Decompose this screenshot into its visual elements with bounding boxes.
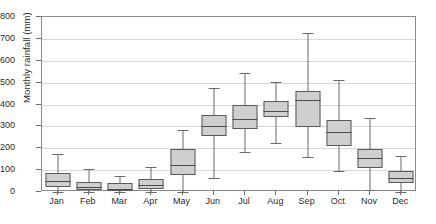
x-axis-tick-mark xyxy=(244,191,245,195)
lower-whisker xyxy=(401,183,402,192)
x-axis-tick-mark xyxy=(213,191,214,195)
upper-whisker xyxy=(370,118,371,150)
upper-whisker xyxy=(182,130,183,150)
x-axis-tick-label-feb: Feb xyxy=(80,196,96,206)
upper-cap xyxy=(177,130,188,131)
lower-cap xyxy=(52,192,63,193)
upper-whisker xyxy=(57,154,58,174)
box-series xyxy=(42,17,415,190)
lower-whisker xyxy=(370,168,371,190)
lower-cap xyxy=(208,178,219,179)
interquartile-box xyxy=(264,101,289,116)
upper-cap xyxy=(146,167,157,168)
x-axis-tick-label-jul: Jul xyxy=(238,196,250,206)
upper-whisker xyxy=(120,176,121,184)
y-axis-tick-mark xyxy=(36,191,41,192)
x-axis-tick-label-may: May xyxy=(173,196,190,206)
lower-cap xyxy=(83,192,94,193)
y-axis-tick-label: 0 xyxy=(0,186,15,196)
lower-cap xyxy=(396,192,407,193)
x-axis-tick-label-jun: Jun xyxy=(206,196,221,206)
median-line xyxy=(326,132,351,133)
upper-cap xyxy=(396,156,407,157)
upper-whisker xyxy=(307,33,308,91)
upper-whisker xyxy=(338,80,339,119)
lower-cap xyxy=(115,192,126,193)
y-axis-tick-label: 100 xyxy=(0,164,15,174)
median-line xyxy=(233,119,258,120)
median-line xyxy=(108,189,133,190)
lower-cap xyxy=(271,143,282,144)
x-axis-tick-mark xyxy=(275,191,276,195)
upper-cap xyxy=(83,169,94,170)
y-axis-tick-label: 200 xyxy=(0,142,15,152)
lower-whisker xyxy=(213,136,214,178)
x-axis-tick-mark xyxy=(369,191,370,195)
x-axis-tick-label-sep: Sep xyxy=(299,196,315,206)
interquartile-box xyxy=(108,183,133,191)
lower-whisker xyxy=(276,117,277,143)
upper-whisker xyxy=(88,169,89,182)
plot-area xyxy=(41,16,416,191)
y-axis-tick-label: 600 xyxy=(0,55,15,65)
interquartile-box xyxy=(233,105,258,129)
x-axis-tick-mark xyxy=(307,191,308,195)
x-axis-tick-label-dec: Dec xyxy=(392,196,408,206)
x-axis-tick-mark xyxy=(338,191,339,195)
upper-whisker xyxy=(151,167,152,179)
median-line xyxy=(295,100,320,101)
lower-cap xyxy=(177,192,188,193)
lower-whisker xyxy=(245,129,246,152)
interquartile-box xyxy=(139,179,164,190)
x-axis-tick-label-mar: Mar xyxy=(111,196,127,206)
y-axis-title: Monthly rainfall (mm) xyxy=(21,0,32,128)
median-line xyxy=(76,187,101,188)
interquartile-box xyxy=(326,120,351,146)
lower-whisker xyxy=(182,175,183,193)
interquartile-box xyxy=(295,91,320,127)
upper-cap xyxy=(52,154,63,155)
upper-cap xyxy=(365,118,376,119)
lower-cap xyxy=(146,192,157,193)
upper-whisker xyxy=(276,82,277,102)
y-axis-tick-label: 400 xyxy=(0,99,15,109)
median-line xyxy=(139,185,164,186)
median-line xyxy=(389,178,414,179)
upper-cap xyxy=(208,88,219,89)
lower-cap xyxy=(240,152,251,153)
box-plot-chart: Monthly rainfall (mm) 010020030040050060… xyxy=(0,0,436,224)
median-line xyxy=(264,111,289,112)
upper-cap xyxy=(271,82,282,83)
y-axis-tick-label: 500 xyxy=(0,77,15,87)
upper-cap xyxy=(115,176,126,177)
upper-whisker xyxy=(401,156,402,171)
y-axis-tick-label: 300 xyxy=(0,120,15,130)
median-line xyxy=(45,181,70,182)
x-axis-tick-label-nov: Nov xyxy=(361,196,377,206)
x-axis-tick-label-apr: Apr xyxy=(143,196,157,206)
lower-whisker xyxy=(307,127,308,157)
y-axis-tick-label: 700 xyxy=(0,33,15,43)
lower-cap xyxy=(333,171,344,172)
y-axis-tick-label: 800 xyxy=(0,11,15,21)
upper-whisker xyxy=(245,73,246,105)
x-axis-tick-label-oct: Oct xyxy=(331,196,345,206)
median-line xyxy=(358,158,383,159)
median-line xyxy=(201,126,226,127)
upper-cap xyxy=(333,80,344,81)
upper-cap xyxy=(302,33,313,34)
interquartile-box xyxy=(45,173,70,186)
x-axis-tick-label-jan: Jan xyxy=(49,196,64,206)
lower-cap xyxy=(365,190,376,191)
x-axis-tick-label-aug: Aug xyxy=(267,196,283,206)
lower-cap xyxy=(302,157,313,158)
interquartile-box xyxy=(170,149,195,174)
lower-whisker xyxy=(338,146,339,171)
median-line xyxy=(170,165,195,166)
upper-cap xyxy=(240,73,251,74)
upper-whisker xyxy=(213,88,214,115)
